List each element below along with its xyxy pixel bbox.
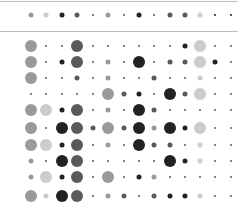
matrix-dot bbox=[133, 122, 145, 134]
matrix-dot bbox=[45, 127, 47, 129]
matrix-dot bbox=[71, 171, 83, 183]
matrix-dot bbox=[61, 77, 63, 79]
matrix-dot bbox=[138, 160, 140, 162]
matrix-dot bbox=[25, 72, 37, 84]
matrix-dot bbox=[183, 44, 188, 49]
matrix-dot bbox=[183, 92, 188, 97]
matrix-dot bbox=[169, 77, 171, 79]
matrix-dot bbox=[25, 40, 37, 52]
matrix-dot bbox=[71, 122, 83, 134]
matrix-dot bbox=[214, 144, 216, 146]
summary-dot bbox=[44, 13, 49, 18]
matrix-dot bbox=[106, 194, 111, 199]
matrix-dot bbox=[168, 194, 173, 199]
matrix-dot bbox=[214, 160, 216, 162]
matrix-dot bbox=[61, 45, 63, 47]
matrix-dot bbox=[214, 109, 216, 111]
matrix-dot bbox=[214, 45, 216, 47]
matrix-dot bbox=[194, 56, 206, 68]
matrix-dot bbox=[230, 176, 232, 178]
matrix-dot bbox=[230, 77, 232, 79]
matrix-dot bbox=[106, 143, 111, 148]
matrix-dot bbox=[168, 60, 173, 65]
matrix-dot bbox=[169, 45, 171, 47]
matrix-dot bbox=[106, 60, 111, 65]
matrix-dot bbox=[183, 126, 188, 131]
matrix-dot bbox=[61, 93, 63, 95]
matrix-dot bbox=[137, 175, 142, 180]
matrix-dot bbox=[71, 56, 83, 68]
matrix-dot bbox=[214, 176, 216, 178]
matrix-dot bbox=[56, 190, 68, 202]
matrix-dot bbox=[164, 155, 176, 167]
matrix-dot bbox=[152, 194, 157, 199]
matrix-dot bbox=[194, 122, 206, 134]
matrix-dot bbox=[45, 45, 47, 47]
matrix-dot bbox=[133, 56, 145, 68]
matrix-dot bbox=[198, 194, 203, 199]
matrix-dot bbox=[40, 171, 52, 183]
matrix-dot bbox=[102, 122, 114, 134]
matrix-dot bbox=[60, 175, 65, 180]
matrix-dot bbox=[45, 61, 47, 63]
matrix-dot bbox=[230, 45, 232, 47]
matrix-dot bbox=[198, 143, 203, 148]
matrix-dot bbox=[92, 77, 94, 79]
matrix-dot bbox=[71, 40, 83, 52]
matrix-dot bbox=[123, 160, 125, 162]
matrix-dot bbox=[184, 176, 186, 178]
matrix-dot bbox=[107, 160, 109, 162]
summary-dot bbox=[75, 13, 80, 18]
matrix-dot bbox=[56, 155, 68, 167]
matrix-dot bbox=[71, 190, 83, 202]
matrix-dot bbox=[30, 93, 32, 95]
matrix-dot bbox=[152, 143, 157, 148]
summary-dot bbox=[168, 13, 173, 18]
matrix-dot bbox=[169, 109, 171, 111]
matrix-dot bbox=[230, 195, 232, 197]
matrix-dot bbox=[92, 109, 94, 111]
matrix-dot bbox=[71, 104, 83, 116]
matrix-dot bbox=[183, 60, 188, 65]
matrix-dot bbox=[56, 122, 68, 134]
matrix-dot bbox=[168, 143, 173, 148]
matrix-dot bbox=[230, 109, 232, 111]
matrix-dot bbox=[214, 127, 216, 129]
matrix-dot bbox=[123, 61, 125, 63]
matrix-dot bbox=[71, 155, 83, 167]
matrix-dot bbox=[133, 104, 145, 116]
matrix-dot bbox=[106, 108, 111, 113]
matrix-dot bbox=[102, 171, 114, 183]
summary-dot bbox=[198, 13, 203, 18]
matrix-dot bbox=[25, 190, 37, 202]
divider-line bbox=[0, 31, 238, 32]
matrix-dot bbox=[184, 109, 186, 111]
matrix-dot bbox=[122, 194, 127, 199]
matrix-dot bbox=[152, 108, 157, 113]
matrix-dot bbox=[199, 109, 201, 111]
matrix-dot bbox=[25, 139, 37, 151]
matrix-dot bbox=[214, 77, 216, 79]
matrix-dot bbox=[199, 176, 201, 178]
matrix-dot bbox=[92, 195, 94, 197]
matrix-dot bbox=[40, 139, 52, 151]
matrix-dot bbox=[164, 88, 176, 100]
summary-dot bbox=[183, 13, 188, 18]
matrix-dot bbox=[138, 195, 140, 197]
summary-dot bbox=[29, 13, 34, 18]
summary-dot bbox=[106, 13, 111, 18]
matrix-dot bbox=[169, 176, 171, 178]
matrix-dot bbox=[230, 61, 232, 63]
matrix-dot bbox=[152, 175, 157, 180]
matrix-dot bbox=[106, 76, 111, 81]
matrix-dot bbox=[230, 160, 232, 162]
matrix-dot bbox=[138, 77, 140, 79]
matrix-dot bbox=[25, 122, 37, 134]
matrix-dot bbox=[25, 56, 37, 68]
divider-line bbox=[0, 1, 238, 2]
matrix-dot bbox=[230, 93, 232, 95]
matrix-dot bbox=[29, 175, 34, 180]
matrix-dot bbox=[183, 159, 188, 164]
matrix-dot bbox=[153, 45, 155, 47]
matrix-dot bbox=[214, 195, 216, 197]
